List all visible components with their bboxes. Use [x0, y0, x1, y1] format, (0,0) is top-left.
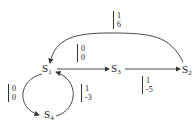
- edge-label-top: 1: [117, 11, 121, 20]
- edge-s4-s1: [56, 72, 73, 116]
- edge-label-s1-s3: 00: [77, 44, 85, 62]
- node-s1: S1: [42, 63, 52, 76]
- edge-label-top: 0: [81, 44, 85, 53]
- node-s2-sub: 2: [188, 69, 192, 77]
- node-s4-sub: 4: [50, 114, 54, 122]
- node-s2: S2: [182, 64, 192, 77]
- edge-label-top: 1: [85, 84, 92, 93]
- node-s4: S4: [44, 109, 54, 122]
- edge-label-s4-s1: 1-3: [81, 84, 92, 102]
- edge-label-bottom: -5: [146, 85, 153, 94]
- node-s1-sub: 1: [48, 68, 52, 76]
- edge-label-bottom: 0: [12, 93, 16, 102]
- edge-label-s2-s1: 16: [113, 11, 121, 29]
- edge-s2-s1: [50, 33, 183, 63]
- edge-label-top: 0: [12, 84, 16, 93]
- node-s3: S3: [111, 63, 121, 76]
- edges-layer: [0, 0, 196, 126]
- edge-label-bottom: -3: [85, 93, 92, 102]
- edge-label-bottom: 0: [81, 53, 85, 62]
- edge-s1-s4: [23, 74, 42, 115]
- edge-label-s1-s4: 00: [8, 84, 16, 102]
- edge-label-top: 1: [146, 76, 153, 85]
- node-s3-sub: 3: [117, 68, 121, 76]
- edge-label-bottom: 6: [117, 20, 121, 29]
- edge-label-s3-s2: 1-5: [142, 76, 153, 94]
